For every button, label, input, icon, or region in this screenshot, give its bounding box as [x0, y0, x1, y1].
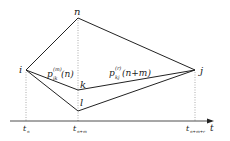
edge-n-j	[78, 18, 195, 70]
svg-text:(n+m): (n+m)	[122, 68, 151, 78]
markov-path-diagram: i n k l j p (m) ik (n) p (r) kj (n+m) t …	[0, 0, 230, 141]
svg-text:n+m: n+m	[77, 129, 87, 134]
node-label-i: i	[19, 64, 22, 75]
node-label-k: k	[80, 79, 86, 90]
tick-label-tn: t n	[23, 124, 30, 134]
axis-label-t: t	[210, 123, 214, 133]
edge-label-ik: p (m) ik (n)	[47, 66, 74, 81]
svg-text:ik: ik	[53, 75, 58, 81]
tick-label-tnm: t n+m	[73, 124, 87, 134]
node-label-n: n	[74, 6, 80, 17]
svg-text:(r): (r)	[115, 65, 121, 71]
svg-text:kj: kj	[115, 74, 120, 81]
svg-text:(n): (n)	[61, 69, 74, 79]
node-label-l: l	[80, 97, 83, 108]
svg-text:n+m+r: n+m+r	[190, 129, 206, 134]
node-label-j: j	[198, 65, 203, 76]
svg-text:n: n	[27, 129, 30, 134]
tick-label-tnmr: t n+m+r	[186, 124, 206, 134]
edge-i-n	[26, 18, 78, 70]
